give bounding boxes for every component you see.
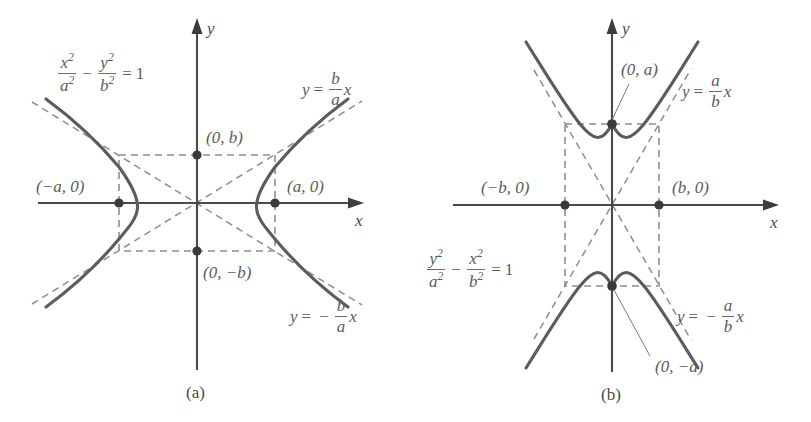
asym-b-neg-equals: = <box>689 308 699 325</box>
point-dot-left-conjugate-b <box>560 200 569 209</box>
equation-b-rhs: 1 <box>505 261 514 278</box>
equation-a-term2: y2 b2 <box>98 52 116 94</box>
asym-a-neg-var: x <box>349 308 357 325</box>
x-axis-arrowhead-a <box>348 198 364 209</box>
point-label-lower-vertex-b: (0, −a) <box>655 357 704 376</box>
y-axis-arrowhead-b <box>607 18 618 34</box>
asymptote-label-negative-a: y = − b a x <box>290 297 357 336</box>
panel-b-svg: (0, a) (0, −a) (−b, 0) (b, 0) y x (b) <box>405 0 811 422</box>
asym-b-pos-var: x <box>724 83 732 100</box>
asym-a-neg-lhs: y <box>290 308 298 325</box>
point-label-upper-vertex-b: (0, a) <box>621 60 658 79</box>
point-label-left-vertex-a: (−a, 0) <box>36 177 85 196</box>
equation-a-equals: = <box>122 65 132 82</box>
y-axis-arrowhead-a <box>192 18 203 34</box>
equation-a-rhs: 1 <box>136 65 145 82</box>
panel-caption-b: (b) <box>601 385 621 404</box>
panel-a: (−a, 0) (a, 0) (0, b) (0, −b) y x (a) x2… <box>0 0 405 422</box>
asym-a-neg-equals: = <box>302 308 312 325</box>
point-dot-right-vertex-a <box>270 198 279 207</box>
asym-b-neg-var: x <box>736 308 744 325</box>
equation-a-term1: x2 a2 <box>58 52 76 94</box>
point-label-right-conjugate-b: (b, 0) <box>672 178 709 197</box>
equation-b-term1: y2 a2 <box>427 248 445 290</box>
equation-b-minus: − <box>451 261 461 278</box>
asym-b-neg-sign: − <box>706 308 716 325</box>
point-dot-right-conjugate-b <box>654 200 663 209</box>
asym-b-pos-frac: a b <box>709 72 722 111</box>
x-axis-label-b: x <box>769 213 778 232</box>
hyperbola-figure: (−a, 0) (a, 0) (0, b) (0, −b) y x (a) x2… <box>0 0 811 422</box>
point-dot-lower-conjugate-a <box>192 246 201 255</box>
panel-caption-a: (a) <box>186 383 205 402</box>
y-axis-label-a: y <box>205 19 215 38</box>
equation-b-equals: = <box>491 261 501 278</box>
point-label-left-conjugate-b: (−b, 0) <box>481 178 530 197</box>
point-dot-lower-vertex-b <box>607 281 617 291</box>
panel-b: (0, a) (0, −a) (−b, 0) (b, 0) y x (b) y2… <box>405 0 811 422</box>
x-axis-label-a: x <box>354 211 363 230</box>
asym-a-pos-frac: b a <box>329 70 342 109</box>
y-axis-label-b: y <box>620 19 630 38</box>
asym-a-neg-sign: − <box>319 308 329 325</box>
asym-a-pos-lhs: y <box>302 81 310 98</box>
asym-b-pos-lhs: y <box>682 83 690 100</box>
x-axis-arrowhead-b <box>763 200 779 211</box>
equation-b: y2 a2 − x2 b2 = 1 <box>425 248 513 290</box>
point-dot-upper-vertex-b <box>607 119 617 129</box>
asymptote-label-negative-b: y = − a b x <box>677 297 744 336</box>
leader-line-lower-vertex-b <box>613 288 650 356</box>
asymptote-label-positive-b: y = a b x <box>682 72 731 111</box>
asym-a-neg-frac: b a <box>335 297 348 336</box>
leader-line-upper-vertex-b <box>611 84 629 122</box>
asym-a-pos-var: x <box>344 81 352 98</box>
asym-b-neg-lhs: y <box>677 308 685 325</box>
point-label-upper-conjugate-a: (0, b) <box>206 128 243 147</box>
point-label-lower-conjugate-a: (0, −b) <box>203 263 252 282</box>
equation-a: x2 a2 − y2 b2 = 1 <box>56 52 144 94</box>
point-dot-upper-conjugate-a <box>192 150 201 159</box>
equation-b-term2: x2 b2 <box>467 248 485 290</box>
asymptote-label-positive-a: y = b a x <box>302 70 351 109</box>
equation-a-minus: − <box>82 65 92 82</box>
point-dot-left-vertex-a <box>114 198 123 207</box>
point-label-right-vertex-a: (a, 0) <box>287 177 324 196</box>
asym-b-neg-frac: a b <box>722 297 735 336</box>
asym-b-pos-equals: = <box>694 83 704 100</box>
asym-a-pos-equals: = <box>314 81 324 98</box>
